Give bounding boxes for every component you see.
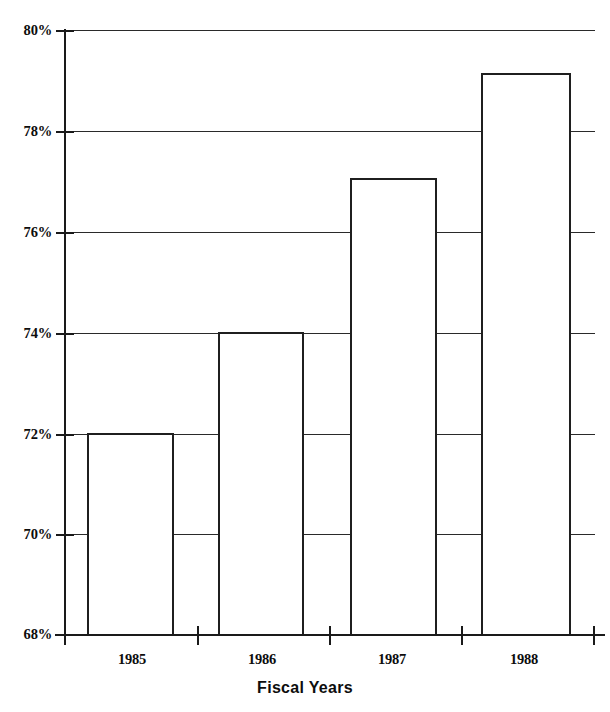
x-tick-label-1985: 1985 <box>86 651 178 668</box>
y-tick-label-76: 76% <box>0 224 52 241</box>
x-tick-label-1986: 1986 <box>216 651 308 668</box>
y-tick-80 <box>56 30 74 32</box>
y-tick-label-78: 78% <box>0 123 52 140</box>
x-tick-2 <box>329 626 331 645</box>
bar-1987 <box>350 178 437 636</box>
y-tick-label-70: 70% <box>0 526 52 543</box>
bar-1986 <box>218 332 304 636</box>
bar-1985 <box>87 433 174 636</box>
x-tick-0 <box>64 626 66 645</box>
y-tick-70 <box>56 534 74 536</box>
y-tick-label-74: 74% <box>0 325 52 342</box>
gridline-80 <box>65 30 595 31</box>
x-tick-1 <box>197 626 199 645</box>
x-tick-4 <box>593 626 595 645</box>
y-tick-76 <box>56 232 74 234</box>
y-tick-74 <box>56 333 74 335</box>
y-tick-label-72: 72% <box>0 426 52 443</box>
y-tick-72 <box>56 434 74 436</box>
y-tick-label-80: 80% <box>0 22 52 39</box>
x-tick-label-1988: 1988 <box>478 651 570 668</box>
bar-chart: 80% 78% 76% 74% 72% 70% 68% 1985 1986 19… <box>0 0 610 712</box>
x-tick-3 <box>461 626 463 645</box>
chart-title <box>0 0 610 5</box>
y-tick-label-68: 68% <box>0 626 52 643</box>
bar-1988 <box>481 73 571 636</box>
x-axis-title: Fiscal Years <box>0 679 610 697</box>
y-tick-78 <box>56 131 74 133</box>
x-tick-label-1987: 1987 <box>346 651 438 668</box>
